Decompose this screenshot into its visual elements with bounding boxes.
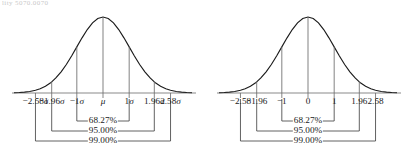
confidence-interval-label: 99.00% xyxy=(88,135,118,145)
confidence-interval-label: 99.00% xyxy=(293,135,323,145)
normal-curve-panel-sigma: −2.58σ−1.96σ−1σμ1σ1.96σ2.58σ68.27%95.00%… xyxy=(0,0,205,160)
confidence-interval-label: 95.00% xyxy=(293,125,323,135)
x-axis-tick-label: −1.96σ xyxy=(39,96,65,106)
x-axis-tick-label: μ xyxy=(101,96,106,106)
normal-curve-panel-zscore: −2.58−1.96−1011.962.5868.27%95.00%99.00% xyxy=(205,0,410,160)
confidence-interval-label: 95.00% xyxy=(88,125,118,135)
x-axis-tick-label: 1σ xyxy=(125,96,134,106)
x-axis-tick-label: −1σ xyxy=(70,96,84,106)
figure-canvas: lity 5070.0070 −2.58σ−1.96σ−1σμ1σ1.96σ2.… xyxy=(0,0,411,160)
x-axis-tick-label: 1 xyxy=(332,96,337,106)
x-axis-tick-label: 1.96 xyxy=(351,96,367,106)
x-axis-tick-label: −1.96 xyxy=(246,96,267,106)
x-axis-tick-label: 2.58 xyxy=(367,96,383,106)
x-axis-tick-label: −1 xyxy=(277,96,287,106)
confidence-interval-label: 68.27% xyxy=(88,115,118,125)
x-axis-tick-label: 2.58σ xyxy=(160,96,181,106)
x-axis-tick-label: 0 xyxy=(306,96,311,106)
confidence-interval-label: 68.27% xyxy=(293,115,323,125)
